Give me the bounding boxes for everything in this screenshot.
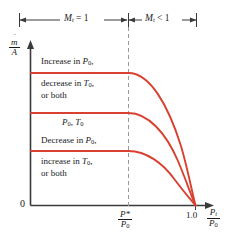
choke-fraction: P* P0 [118,210,132,230]
y-axis-fraction: ˙m A [9,38,20,57]
annotation-increase-P0-line1: Increase in P0, [41,56,93,69]
annotation-nominal-P0-T0: P0, T0 [62,117,84,130]
region-label-sonic-subscript: t [72,16,74,23]
choke-numerator: P* [118,210,132,219]
origin-label: 0 [20,198,25,209]
region-label-subsonic-relation: < 1 [157,13,169,23]
region-label-sonic: Mt = 1 [64,13,89,23]
annotation-decrease-P0-line1: Decrease in P0, [41,135,96,148]
region-label-sonic-symbol: M [64,13,72,23]
region-label-subsonic-symbol: M [145,13,153,23]
region-label-subsonic: Mt < 1 [145,13,170,23]
x-axis-numerator: Pt [207,208,220,218]
choke-denominator: P0 [118,219,132,230]
bracket-right-arrowhead-left [129,17,136,22]
bracket-right-arrowhead-right [190,17,197,22]
y-axis-label: ˙m A [9,38,20,57]
y-axis-arrowhead [27,40,34,49]
bracket-left-arrowhead-left [20,17,27,22]
region-label-sonic-relation: = 1 [76,13,88,23]
annotation-increase-P0-line3: or both [41,90,67,102]
x-axis-fraction: Pt P0 [207,208,220,229]
annotation-decrease-P0-line2: increase in T0, [41,156,93,169]
x-tick-label-one: 1.0 [186,210,197,220]
y-axis-denominator: A [9,47,20,57]
chart-figure: Mt = 1 Mt < 1 ˙m A 0 Increase in P0, dec… [0,0,232,252]
x-axis-denominator: P0 [207,218,220,229]
annotation-decrease-P0-line3: or both [41,168,67,180]
x-axis-label: Pt P0 [207,208,220,229]
y-axis-numerator: ˙m [9,38,20,47]
bracket-left-arrowhead-right [121,17,128,22]
m-dot-accent: ˙ [13,34,16,42]
annotation-increase-P0-line2: decrease in T0, [41,78,94,91]
x-tick-label-choke: P* P0 [118,210,132,230]
region-label-subsonic-subscript: t [153,16,155,23]
